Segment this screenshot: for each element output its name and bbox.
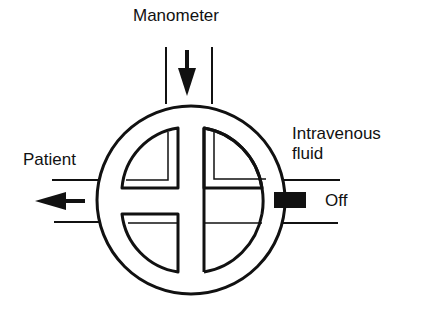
iv-fluid-label-line2: fluid (292, 144, 323, 164)
patient-label: Patient (23, 150, 76, 170)
manometer-label: Manometer (133, 6, 219, 26)
iv-fluid-label-line1: Intravenous (292, 124, 381, 144)
flow-arrow-down-icon (178, 50, 196, 96)
off-label: Off (325, 191, 347, 211)
valve-body (97, 106, 285, 294)
off-handle (274, 192, 306, 208)
flow-arrow-left-icon (35, 192, 85, 210)
